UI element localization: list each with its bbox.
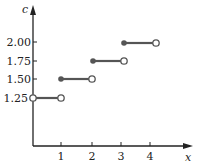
- x-tick-label: 3: [118, 150, 125, 163]
- x-tick-label: 1: [58, 150, 65, 163]
- y-tick-label: 1.50: [7, 73, 32, 86]
- y-tick-label: 2.00: [7, 36, 32, 49]
- step-segment: [58, 76, 95, 82]
- step-segment: [30, 95, 64, 101]
- y-tick-label: 1.25: [4, 92, 29, 105]
- x-tick-label: 2: [89, 150, 96, 163]
- step-segment: [90, 58, 127, 64]
- step-segment: [121, 40, 159, 46]
- open-dot-icon: [121, 58, 127, 64]
- y-axis-arrow-icon: [30, 5, 36, 15]
- filled-dot-icon: [58, 76, 64, 82]
- open-dot-icon: [89, 76, 95, 82]
- y-tick-label: 1.75: [7, 55, 32, 68]
- y-axis-label: c: [22, 3, 28, 16]
- x-axis-arrow-icon: [183, 143, 193, 149]
- open-dot-icon: [153, 40, 159, 46]
- step-function-chart: c x 2.00 1.75 1.50 1.25 1 2 3 4: [0, 0, 201, 168]
- open-dot-icon: [30, 95, 36, 101]
- x-axis-label: x: [185, 151, 192, 164]
- open-dot-icon: [58, 95, 64, 101]
- filled-dot-icon: [90, 58, 96, 64]
- filled-dot-icon: [121, 40, 127, 46]
- x-tick-label: 4: [147, 150, 154, 163]
